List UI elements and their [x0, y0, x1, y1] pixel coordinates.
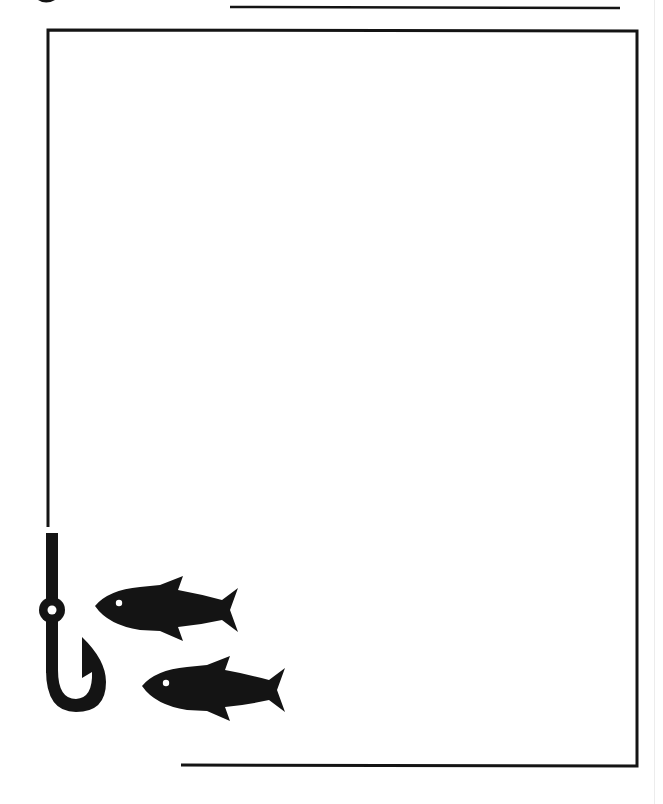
fish-lower-icon	[142, 656, 285, 721]
frame-border	[48, 30, 637, 766]
artwork-svg	[0, 0, 663, 804]
scan-edge-line	[654, 0, 655, 804]
fishing-hook-icon	[39, 533, 106, 712]
top-rule-line	[230, 7, 620, 8]
cropped-glyph-fragment	[38, 0, 55, 3]
frame-artwork	[0, 0, 663, 804]
fish-upper-icon	[95, 576, 238, 641]
